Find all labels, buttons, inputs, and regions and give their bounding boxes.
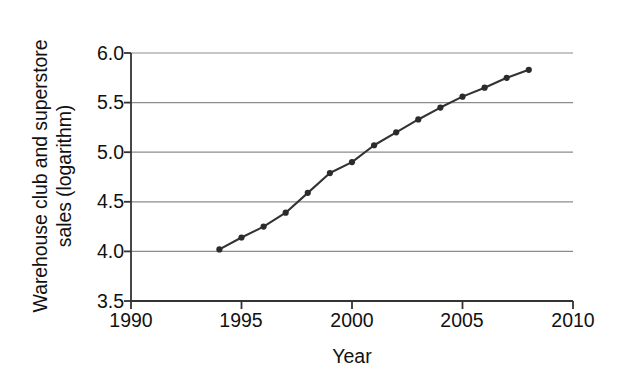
series-markers — [216, 67, 532, 253]
gridlines — [131, 53, 573, 301]
data-point-2004 — [437, 104, 443, 110]
axis-lines — [131, 53, 573, 301]
data-point-1995 — [238, 234, 244, 240]
data-point-2005 — [459, 94, 465, 100]
data-point-2008 — [526, 67, 532, 73]
data-point-1997 — [283, 210, 289, 216]
data-point-1996 — [261, 224, 267, 230]
data-point-2007 — [504, 75, 510, 81]
data-point-2002 — [393, 129, 399, 135]
data-point-2001 — [371, 142, 377, 148]
plot-area — [0, 0, 623, 385]
data-point-2006 — [482, 85, 488, 91]
data-point-2000 — [349, 159, 355, 165]
data-point-1994 — [216, 246, 222, 252]
data-point-2003 — [415, 116, 421, 122]
data-point-1999 — [327, 170, 333, 176]
chart-figure: Warehouse club and superstore sales (log… — [0, 0, 623, 385]
axis-ticks — [124, 53, 573, 309]
data-point-1998 — [305, 190, 311, 196]
series-line — [219, 70, 528, 250]
